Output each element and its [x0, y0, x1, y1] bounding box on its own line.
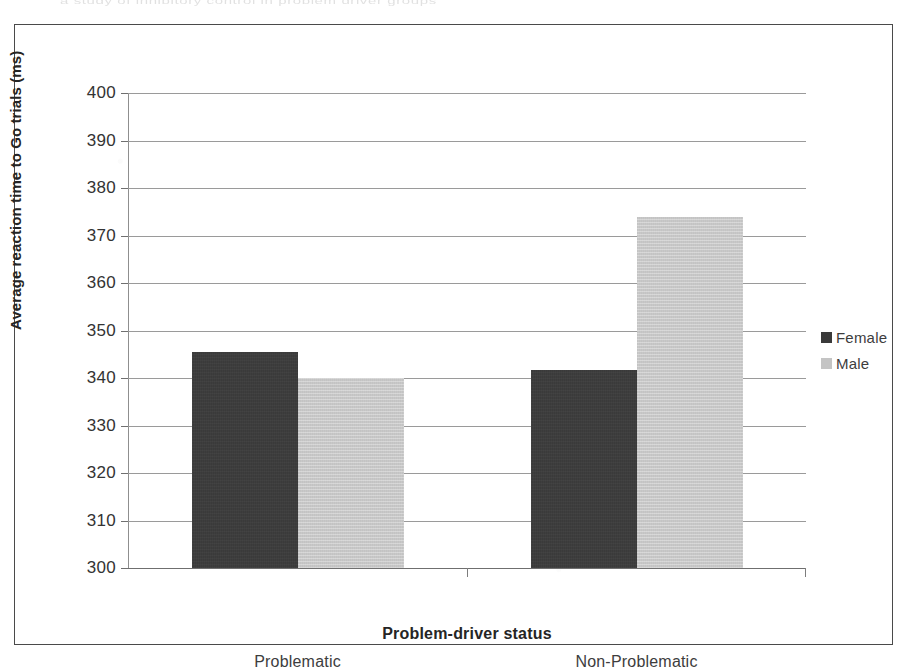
x-axis-end-tick [805, 568, 806, 577]
plot-area: 400390380370360350340330320310300Problem… [128, 93, 806, 568]
gridline-400 [128, 93, 806, 94]
y-tick-mark-320 [121, 473, 128, 474]
y-tick-label-350: 350 [87, 321, 116, 341]
y-tick-label-360: 360 [87, 273, 116, 293]
y-axis-title: Average reaction time to Go trials (ms) [7, 51, 24, 330]
legend-item-female[interactable]: Female [821, 330, 887, 345]
y-tick-label-390: 390 [87, 131, 116, 151]
y-tick-label-370: 370 [87, 226, 116, 246]
y-tick-mark-370 [121, 236, 128, 237]
y-tick-label-320: 320 [87, 463, 116, 483]
y-tick-label-400: 400 [87, 83, 116, 103]
chart-legend: Female Male [821, 330, 887, 382]
y-tick-mark-330 [121, 426, 128, 427]
bar-male-non-problematic[interactable] [637, 217, 743, 569]
y-tick-label-330: 330 [87, 416, 116, 436]
x-category-label-problematic: Problematic [254, 653, 341, 671]
bar-male-problematic[interactable] [298, 378, 404, 568]
legend-item-male[interactable]: Male [821, 356, 887, 371]
gridline-390 [128, 141, 806, 142]
y-tick-mark-350 [121, 331, 128, 332]
y-tick-mark-340 [121, 378, 128, 379]
legend-label-male: Male [836, 355, 869, 372]
bar-female-problematic[interactable] [192, 352, 298, 568]
legend-label-female: Female [836, 329, 887, 346]
y-tick-mark-310 [121, 521, 128, 522]
bar-female-non-problematic[interactable] [531, 370, 637, 568]
x-axis-group-separator-tick [467, 568, 468, 577]
x-axis-title: Problem-driver status [128, 625, 806, 643]
y-tick-mark-400 [121, 93, 128, 94]
y-tick-mark-300 [121, 568, 128, 569]
legend-swatch-female-icon [821, 332, 832, 343]
legend-swatch-male-icon [821, 358, 832, 369]
gridline-380 [128, 188, 806, 189]
y-tick-label-300: 300 [87, 558, 116, 578]
x-category-label-non-problematic: Non-Problematic [575, 653, 697, 671]
scan-bleed-through-text: a study of inhibitory control in problem… [60, 0, 880, 8]
y-tick-mark-360 [121, 283, 128, 284]
y-tick-label-380: 380 [87, 178, 116, 198]
chart-figure-frame: Average reaction time to Go trials (ms) … [14, 24, 893, 645]
y-tick-mark-380 [121, 188, 128, 189]
y-tick-mark-390 [121, 141, 128, 142]
y-tick-label-310: 310 [87, 511, 116, 531]
y-tick-label-340: 340 [87, 368, 116, 388]
